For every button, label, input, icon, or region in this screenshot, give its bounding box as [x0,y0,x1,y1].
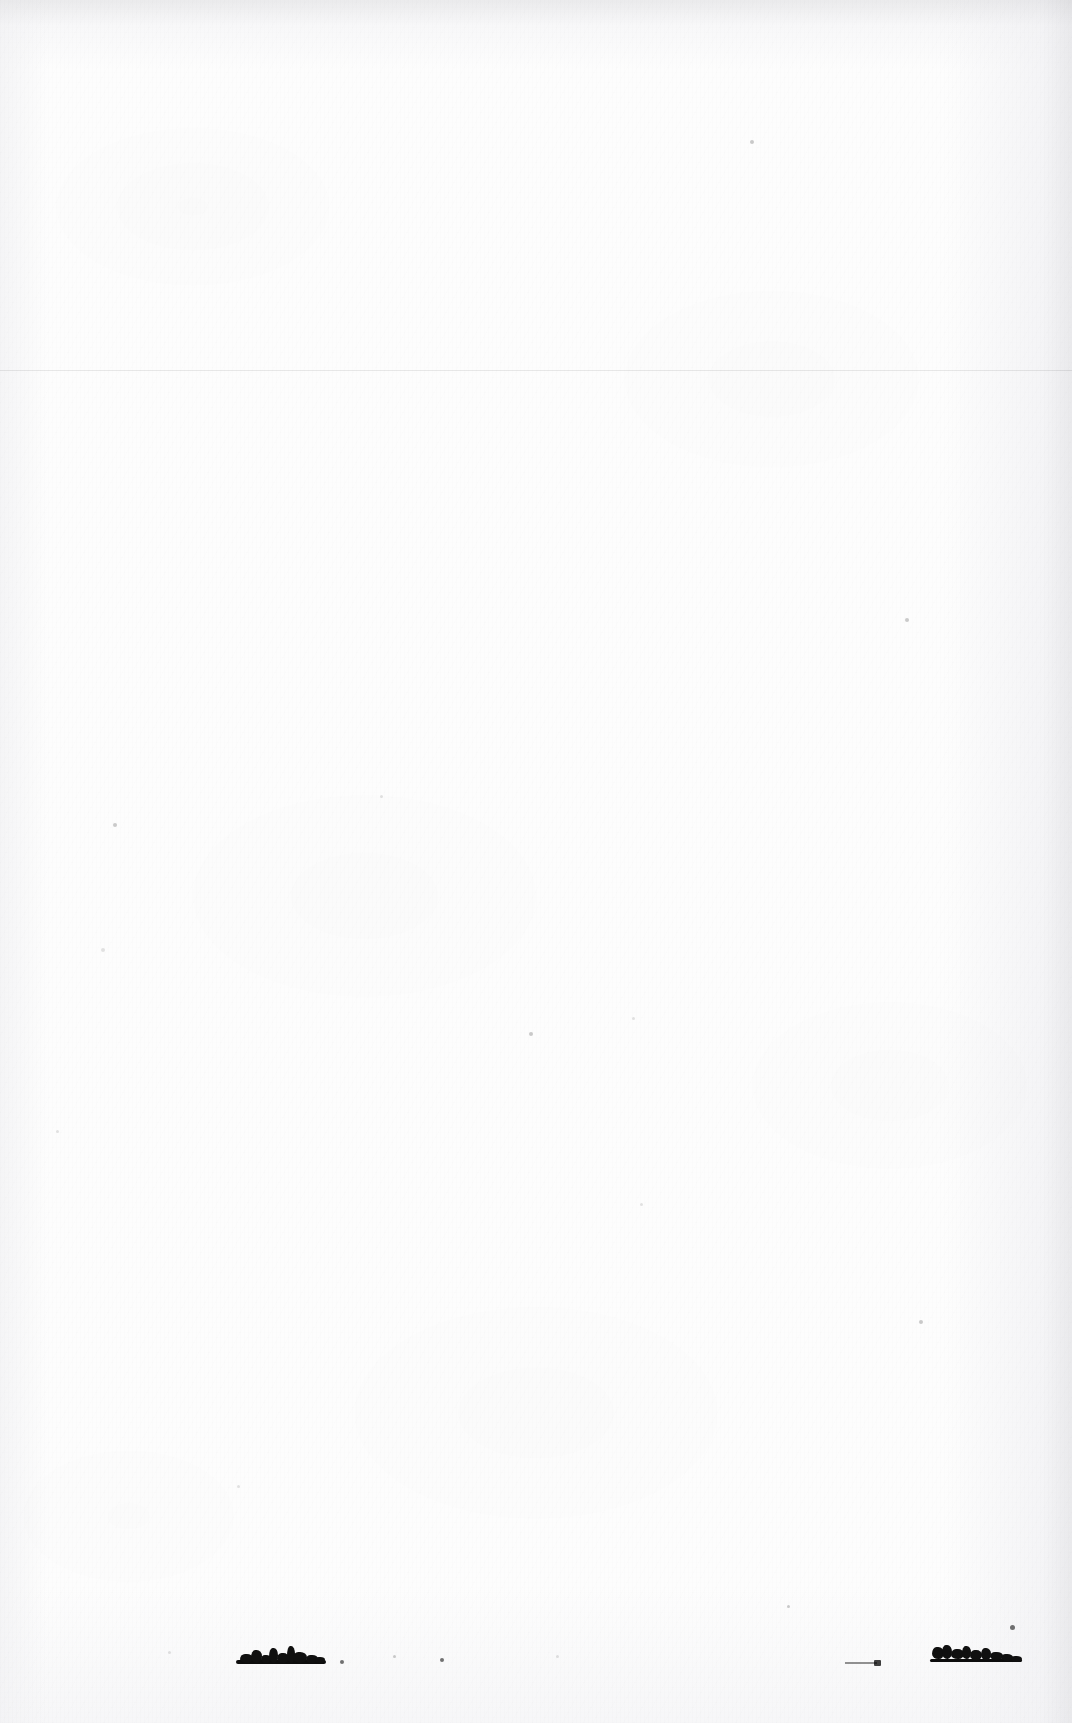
dust-speck [750,140,754,144]
dust-speck [919,1320,923,1324]
dust-speck [168,1651,171,1654]
paper-mottle-texture [0,0,1072,1723]
dust-speck [529,1032,533,1036]
faint-dash-mark [845,1662,877,1664]
scan-edge-shadow-right [1042,0,1072,1723]
dust-speck [340,1660,344,1664]
dust-speck [905,618,909,622]
dust-speck [101,948,105,952]
scanned-document-page [0,0,1072,1723]
dust-speck [440,1658,444,1662]
dust-speck [1010,1625,1015,1630]
dust-speck [380,795,383,798]
ink-smudge-left [236,1646,326,1664]
dust-speck [556,1655,559,1658]
faint-horizontal-rule [0,370,1072,371]
dust-speck [113,823,117,827]
dust-speck [640,1203,643,1206]
dust-speck [56,1130,59,1133]
ink-smudge-right [930,1643,1022,1662]
scan-edge-shadow-top [0,0,1072,26]
dust-speck [237,1485,240,1488]
dust-speck [632,1017,635,1020]
dust-speck [393,1655,396,1658]
paper-grain-texture [0,0,1072,1723]
dust-speck [787,1605,790,1608]
